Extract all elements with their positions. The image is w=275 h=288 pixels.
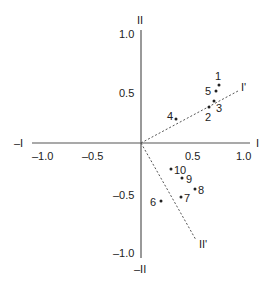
data-point-4 xyxy=(175,118,178,121)
point-label: 4 xyxy=(167,110,173,122)
point-label: 8 xyxy=(198,184,204,196)
data-point-8 xyxy=(194,188,197,191)
point-label: 9 xyxy=(186,173,192,185)
data-point-1 xyxy=(218,84,221,87)
data-point-5 xyxy=(215,90,218,93)
data-point-10 xyxy=(170,168,173,171)
y-tick-label: 1.0 xyxy=(119,28,134,40)
point-label: 3 xyxy=(216,102,222,114)
data-point-6 xyxy=(160,200,163,203)
x-tick-label: 0.5 xyxy=(185,150,200,162)
axis-label-neg-i: –I xyxy=(14,137,23,149)
y-tick-label: –0.5 xyxy=(113,189,134,201)
data-point-2 xyxy=(208,106,211,109)
x-tick-label: –1.0 xyxy=(32,150,53,162)
data-point-7 xyxy=(180,196,183,199)
axis-label-ii: II xyxy=(137,14,143,26)
factor-loading-plot: I –I II –II I' II' –1.0 –0.5 0.5 1.0 1.0… xyxy=(0,0,275,288)
point-label: 1 xyxy=(215,70,221,82)
x-tick-label: –0.5 xyxy=(82,150,103,162)
data-point-9 xyxy=(181,177,184,180)
point-label: 6 xyxy=(150,196,156,208)
y-tick-label: –1.0 xyxy=(113,247,134,259)
y-tick-label: 0.5 xyxy=(119,87,134,99)
axis-label-ii-prime: II' xyxy=(199,238,207,250)
axis-label-i-prime: I' xyxy=(241,81,246,93)
x-tick-label: 1.0 xyxy=(236,150,251,162)
axis-label-i: I xyxy=(256,137,259,149)
point-label: 2 xyxy=(205,111,211,123)
point-label: 5 xyxy=(205,85,211,97)
point-label: 7 xyxy=(184,192,190,204)
rotated-axis-i-prime xyxy=(141,91,238,143)
point-label: 10 xyxy=(174,164,186,176)
axis-label-neg-ii: –II xyxy=(134,263,146,275)
